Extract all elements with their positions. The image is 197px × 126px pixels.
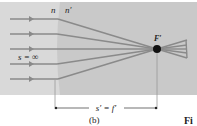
focal-point-marker <box>153 45 161 53</box>
object-distance-label: s = ∞ <box>18 52 39 62</box>
medium-n-label: n <box>51 5 56 15</box>
dimension-endpoint-left <box>55 107 57 109</box>
refraction-diagram: n n′ s = ∞ F′ s′ = f′ (b) Fi <box>0 0 197 126</box>
dimension-label: s′ = f′ <box>96 103 118 113</box>
wavefront-edge <box>186 40 187 58</box>
focal-point-label: F′ <box>153 34 162 43</box>
dimension-endpoint-right <box>155 107 157 109</box>
panel-label: (b) <box>89 115 100 125</box>
medium-n-prime-label: n′ <box>65 5 73 15</box>
figure-caption-fragment: Fi <box>184 115 193 126</box>
